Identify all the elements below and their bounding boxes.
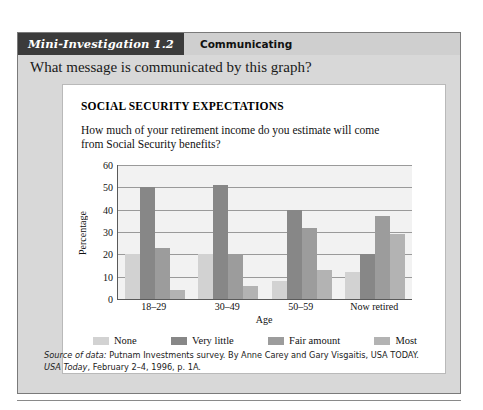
legend-swatch xyxy=(374,337,390,345)
bar-chart: Percentage 0102030405060 18–2930–4950–59… xyxy=(81,165,431,315)
y-tick-label: 20 xyxy=(103,249,113,260)
x-axis-title: Age xyxy=(117,314,411,325)
x-axis-ticks: 18–2930–4950–59Now retired xyxy=(117,301,411,312)
investigation-section-label: Communicating xyxy=(184,33,292,55)
bar xyxy=(272,281,287,299)
mini-investigation-panel: Mini-Investigation 1.2 Communicating Wha… xyxy=(17,32,461,394)
y-axis-title: Percentage xyxy=(77,193,91,273)
y-tick-label: 0 xyxy=(108,294,113,305)
investigation-question: What message is communicated by this gra… xyxy=(30,59,312,76)
source-note: Source of data: Putnam Investments surve… xyxy=(44,350,422,373)
bar-group xyxy=(339,165,413,299)
x-tick-label: 50–59 xyxy=(264,301,338,312)
legend-label: None xyxy=(114,335,137,346)
legend-swatch xyxy=(93,337,109,345)
bar xyxy=(287,210,302,299)
figure-card: SOCIAL SECURITY EXPECTATIONS How much of… xyxy=(62,84,446,374)
bar-group xyxy=(118,165,192,299)
bar xyxy=(360,254,375,299)
bar xyxy=(345,272,360,299)
investigation-header-bar: Mini-Investigation 1.2 Communicating xyxy=(18,33,460,55)
y-tick-label: 40 xyxy=(103,204,113,215)
bar xyxy=(243,286,258,299)
bar xyxy=(317,270,332,299)
source-publication: USA Today xyxy=(44,362,87,372)
x-tick-label: 30–49 xyxy=(191,301,265,312)
bar xyxy=(302,228,317,299)
y-tick-label: 10 xyxy=(103,271,113,282)
bar-group xyxy=(192,165,266,299)
y-tick-label: 60 xyxy=(103,160,113,171)
investigation-tag: Mini-Investigation 1.2 xyxy=(18,33,184,55)
legend-label: Fair amount xyxy=(289,335,340,346)
legend-item: Fair amount xyxy=(268,335,340,346)
bottom-divider xyxy=(17,400,461,401)
plot-area xyxy=(117,165,412,300)
chart-legend: NoneVery littleFair amountMost xyxy=(81,335,429,346)
bar xyxy=(125,254,140,299)
bar xyxy=(155,248,170,299)
legend-item: Very little xyxy=(171,335,234,346)
y-axis-ticks: 0102030405060 xyxy=(91,165,115,299)
legend-item: None xyxy=(93,335,137,346)
bar xyxy=(170,290,185,299)
x-tick-label: Now retired xyxy=(338,301,412,312)
x-tick-label: 18–29 xyxy=(117,301,191,312)
figure-subtitle: How much of your retirement income do yo… xyxy=(81,123,381,151)
bar xyxy=(390,234,405,299)
legend-swatch xyxy=(171,337,187,345)
bar-series-container xyxy=(118,165,412,299)
legend-label: Most xyxy=(395,335,417,346)
legend-swatch xyxy=(268,337,284,345)
figure-title: SOCIAL SECURITY EXPECTATIONS xyxy=(81,100,284,112)
bar xyxy=(213,185,228,299)
bar xyxy=(198,254,213,299)
legend-label: Very little xyxy=(192,335,234,346)
source-text-2: , February 2–4, 1996, p. 1A. xyxy=(87,362,201,372)
source-text-1: Putnam Investments survey. By Anne Carey… xyxy=(107,350,419,360)
bar xyxy=(375,216,390,299)
bar xyxy=(140,187,155,299)
source-label: Source of data: xyxy=(44,350,107,360)
bar xyxy=(228,254,243,299)
y-tick-label: 30 xyxy=(103,227,113,238)
y-tick-label: 50 xyxy=(103,182,113,193)
bar-group xyxy=(265,165,339,299)
legend-item: Most xyxy=(374,335,417,346)
